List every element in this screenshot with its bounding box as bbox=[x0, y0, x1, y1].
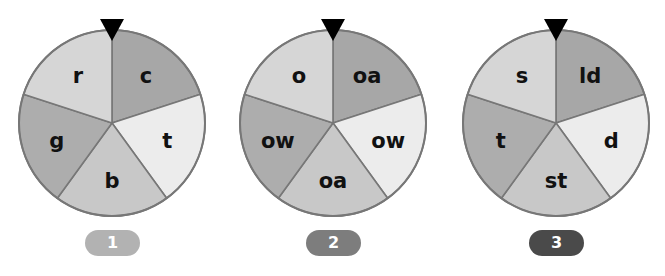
segment-label: s bbox=[516, 64, 529, 88]
wheel-number-badge: 3 bbox=[529, 230, 584, 256]
segment-label: ow bbox=[371, 129, 405, 153]
segment-label: d bbox=[604, 129, 619, 153]
segment-label: ow bbox=[261, 129, 295, 153]
wheel-number-badge: 2 bbox=[306, 230, 361, 256]
segment-label: c bbox=[140, 64, 152, 88]
segment-label: t bbox=[496, 129, 506, 153]
segment-label: t bbox=[162, 129, 172, 153]
segment-label: g bbox=[49, 129, 64, 153]
segment-label: st bbox=[545, 169, 568, 193]
spinner-wheel-2: oaowoaowo2 bbox=[222, 0, 444, 276]
segment-label: ld bbox=[579, 64, 601, 88]
segment-label: o bbox=[292, 64, 306, 88]
spinner-wheel-1: ctbgr1 bbox=[1, 0, 223, 276]
wheel-graphic: ctbgr bbox=[1, 0, 223, 230]
spinner-wheel-3: lddstts3 bbox=[445, 0, 665, 276]
wheel-graphic: lddstts bbox=[445, 0, 665, 230]
wheel-graphic: oaowoaowo bbox=[222, 0, 444, 230]
segment-label: r bbox=[73, 64, 84, 88]
segment-label: oa bbox=[353, 64, 382, 88]
segment-label: b bbox=[104, 169, 119, 193]
segment-label: oa bbox=[319, 169, 348, 193]
wheel-number-badge: 1 bbox=[85, 230, 140, 256]
